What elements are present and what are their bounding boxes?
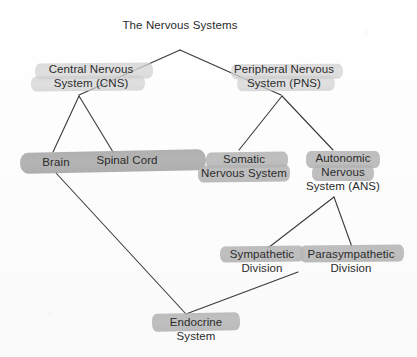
brain-label: Brain: [28, 155, 84, 169]
cns-label-line1: Central Nervous: [31, 62, 151, 76]
spinal-cord-label: Spinal Cord: [85, 153, 169, 167]
endocrine-label-line1: Endocrine: [152, 315, 240, 329]
node-cns[interactable]: Central Nervous System (CNS): [31, 62, 151, 90]
sympathetic-label-line2: Division: [220, 261, 304, 275]
edge-cns-brain: [53, 96, 79, 152]
node-autonomic[interactable]: Autonomic Nervous System (ANS): [300, 151, 386, 193]
node-brain[interactable]: Brain: [28, 155, 84, 169]
endocrine-label-line2: System: [152, 329, 240, 343]
title-text: The Nervous Systems: [110, 18, 250, 32]
parasympathetic-label-line2: Division: [300, 261, 402, 275]
node-spinal-cord[interactable]: Spinal Cord: [85, 153, 169, 167]
edge-ans-parasympathetic: [334, 197, 352, 247]
autonomic-label-line2: Nervous: [300, 165, 386, 179]
edge-cns-spinal-cord: [79, 96, 113, 152]
edge-pns-autonomic: [282, 96, 333, 150]
autonomic-label-line1: Autonomic: [300, 151, 386, 165]
node-parasympathetic[interactable]: Parasympathetic Division: [300, 247, 402, 275]
node-endocrine[interactable]: Endocrine System: [152, 315, 240, 343]
autonomic-label-line3: System (ANS): [300, 179, 386, 193]
cns-label-line2: System (CNS): [31, 76, 151, 90]
edge-brain-endocrine: [56, 173, 186, 314]
somatic-label-line2: Nervous System: [198, 166, 290, 180]
edge-sympathetic-endocrine: [186, 272, 298, 314]
node-title: The Nervous Systems: [110, 18, 250, 32]
edge-ans-sympathetic: [268, 197, 334, 248]
edge-pns-somatic: [239, 96, 282, 150]
diagram-canvas: The Nervous Systems Central Nervous Syst…: [0, 0, 417, 357]
sympathetic-label-line1: Sympathetic: [220, 247, 304, 261]
pns-label-line1: Peripheral Nervous: [225, 62, 343, 76]
node-pns[interactable]: Peripheral Nervous System (PNS): [225, 62, 343, 90]
somatic-label-line1: Somatic: [198, 152, 290, 166]
parasympathetic-label-line1: Parasympathetic: [300, 247, 402, 261]
node-sympathetic[interactable]: Sympathetic Division: [220, 247, 304, 275]
pns-label-line2: System (PNS): [225, 76, 343, 90]
node-somatic[interactable]: Somatic Nervous System: [198, 152, 290, 180]
